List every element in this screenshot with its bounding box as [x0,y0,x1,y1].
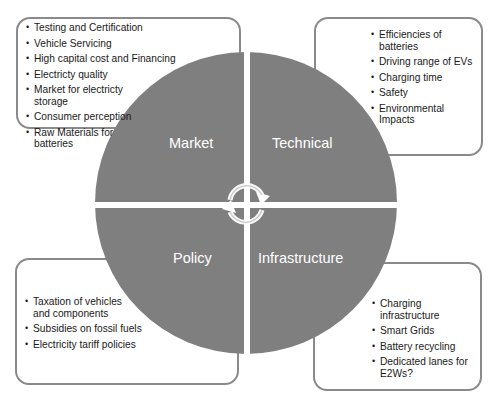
list-item: Consumer perception [26,111,186,123]
technical-label: Technical [272,135,332,151]
list-item: Market for electricty storage [26,84,124,107]
infrastructure-factors-list: Charging infrastructure Smart Grids Batt… [372,298,477,383]
list-item: Vehicle Servicing [26,38,186,50]
policy-label: Policy [173,250,212,266]
technical-factors-list: Efficiencies of batteries Driving range … [371,29,479,130]
list-item: Testing and Certification [26,22,186,34]
policy-factors-list: Taxation of vehicles and components Subs… [25,296,155,354]
list-item: Smart Grids [372,325,477,337]
list-item: Safety [371,87,479,99]
list-item: Taxation of vehicles and components [25,296,133,319]
list-item: Subsidies on fossil fuels [25,323,155,335]
list-item: Raw Materials for batteries [26,127,124,150]
list-item: Dedicated lanes for E2Ws? [372,356,475,379]
list-item: Charging time [371,72,479,84]
list-item: Electricity tariff policies [25,339,155,351]
list-item: Electricty quality [26,69,186,81]
infrastructure-label: Infrastructure [258,250,343,266]
list-item: Environmental Impacts [371,103,459,126]
market-factors-list: Testing and Certification Vehicle Servic… [26,22,186,154]
list-item: Battery recycling [372,341,477,353]
list-item: High capital cost and Financing [26,53,186,65]
list-item: Driving range of EVs [371,56,479,68]
list-item: Charging infrastructure [372,298,450,321]
list-item: Efficiencies of batteries [371,29,449,52]
